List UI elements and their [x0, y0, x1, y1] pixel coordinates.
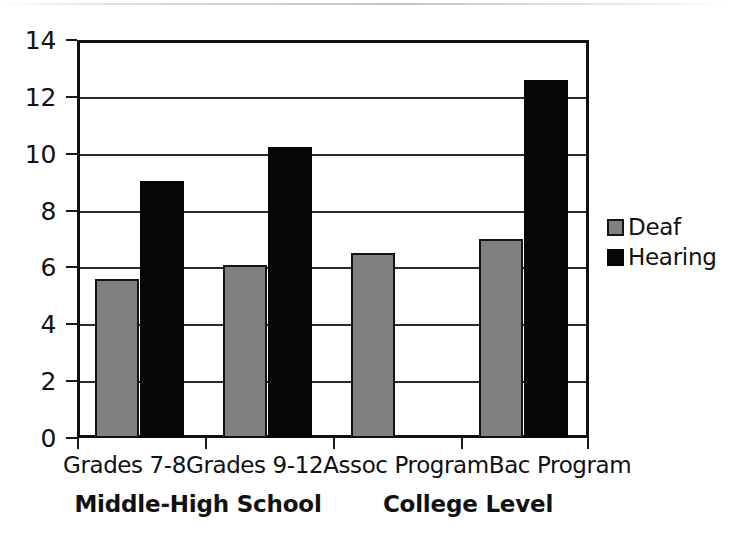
- x-axis-tick-mark: [333, 438, 335, 449]
- chart-legend: DeafHearing: [607, 212, 725, 272]
- y-axis-tick-label: 6: [40, 255, 56, 280]
- x-axis-labels: Grades 7-8Grades 9-12Assoc ProgramBac Pr…: [63, 450, 603, 482]
- legend-item-label: Deaf: [628, 216, 681, 239]
- y-axis-tick-mark: [66, 39, 77, 41]
- bar-hearing-bac-program[interactable]: [524, 80, 568, 438]
- bar-hearing-grades-9-12[interactable]: [268, 147, 312, 438]
- legend-item-hearing[interactable]: Hearing: [607, 242, 725, 272]
- y-axis-tick-mark: [66, 153, 77, 155]
- x-axis-ticks: [77, 438, 589, 450]
- bars-layer: [77, 40, 589, 438]
- black-square-icon: [607, 249, 624, 266]
- x-axis-tick-mark: [461, 438, 463, 449]
- y-axis-tick-mark: [66, 380, 77, 382]
- group-label: College Level: [333, 487, 603, 523]
- bar-deaf-grades-7-8[interactable]: [95, 279, 139, 438]
- legend-item-label: Hearing: [628, 246, 716, 269]
- y-axis-tick-label: 0: [40, 426, 56, 451]
- bar-deaf-bac-program[interactable]: [479, 239, 523, 438]
- x-axis-tick-mark: [77, 438, 79, 449]
- x-axis-tick-mark: [587, 438, 589, 449]
- y-axis-tick-label: 12: [25, 84, 56, 109]
- y-axis-tick-mark: [66, 96, 77, 98]
- bar-group: [205, 40, 333, 438]
- y-axis-tick-label: 10: [25, 141, 56, 166]
- bar-deaf-assoc-program[interactable]: [351, 253, 395, 438]
- legend-item-deaf[interactable]: Deaf: [607, 212, 725, 242]
- x-axis-category-label: Grades 7-8: [63, 450, 186, 482]
- y-axis-tick-mark: [66, 323, 77, 325]
- bar-chart-figure: 02468101214 Grades 7-8Grades 9-12Assoc P…: [0, 0, 729, 540]
- y-axis-tick-mark: [66, 437, 77, 439]
- group-labels: Middle-High SchoolCollege Level: [63, 487, 603, 523]
- group-label: Middle-High School: [63, 487, 333, 523]
- gray-square-icon: [607, 219, 624, 236]
- y-axis-tick-label: 2: [40, 369, 56, 394]
- bar-group: [461, 40, 589, 438]
- x-axis-category-label: Grades 9-12: [186, 450, 323, 482]
- x-axis-tick-mark: [205, 438, 207, 449]
- y-axis-tick-mark: [66, 266, 77, 268]
- y-axis-tick-label: 8: [40, 198, 56, 223]
- bar-group: [333, 40, 461, 438]
- bar-group: [77, 40, 205, 438]
- x-axis-category-label: Assoc Program: [323, 450, 489, 482]
- y-axis-tick-label: 14: [25, 28, 56, 53]
- y-axis-tick-label: 4: [40, 312, 56, 337]
- x-axis-category-label: Bac Program: [489, 450, 631, 482]
- bar-hearing-grades-7-8[interactable]: [140, 181, 184, 438]
- bar-deaf-grades-9-12[interactable]: [223, 265, 267, 438]
- y-axis-tick-mark: [66, 210, 77, 212]
